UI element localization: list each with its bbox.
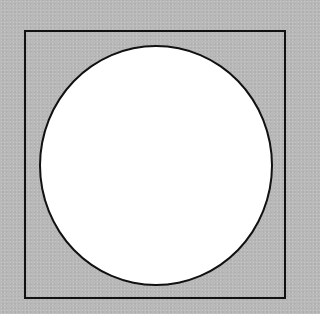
- inscribed-circle: [39, 45, 273, 286]
